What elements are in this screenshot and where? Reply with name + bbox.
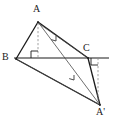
vertex-label-A: A xyxy=(33,4,40,14)
arrow-on-AAp-upper xyxy=(51,36,58,43)
segment-AB xyxy=(16,22,38,59)
vertex-label-B: B xyxy=(2,52,9,62)
vertex-point-B xyxy=(15,58,17,60)
geometry-diagram: A B C A' xyxy=(0,0,113,121)
segment-A-to-C-thin xyxy=(38,23,88,58)
vertex-label-A-prime: A' xyxy=(96,107,105,117)
right-angle-at-D xyxy=(31,51,38,58)
vertex-point-C xyxy=(87,57,89,59)
geometry-canvas xyxy=(0,0,113,121)
vertex-point-A xyxy=(37,21,39,23)
arrow-on-AAp-lower xyxy=(69,75,76,82)
vertex-label-C: C xyxy=(83,43,90,53)
right-angle-at-E xyxy=(91,58,98,65)
segment-B-to-A-prime-thin xyxy=(16,59,100,105)
